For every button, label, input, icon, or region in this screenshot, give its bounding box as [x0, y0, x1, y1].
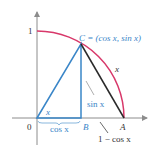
- arc-length-label: x: [114, 64, 119, 74]
- point-c-label: C = (cos x, sin x): [79, 33, 141, 43]
- sin-label: sin x: [87, 99, 105, 109]
- one-minus-cos-label: 1 − cos x: [98, 134, 131, 144]
- point-b-label: B: [83, 122, 89, 132]
- sin-leader: [86, 81, 94, 95]
- y-tick-one-label: 1: [28, 26, 33, 36]
- origin-label: 0: [27, 122, 32, 132]
- unit-circle-diagram: 1 0 C = (cos x, sin x) x x sin x cos x B…: [0, 0, 161, 155]
- triangle-obc: [37, 44, 81, 118]
- angle-label: x: [45, 107, 50, 117]
- cos-label: cos x: [50, 124, 69, 134]
- point-a-label: A: [119, 122, 126, 132]
- one-minus-cos-leader: [100, 122, 108, 133]
